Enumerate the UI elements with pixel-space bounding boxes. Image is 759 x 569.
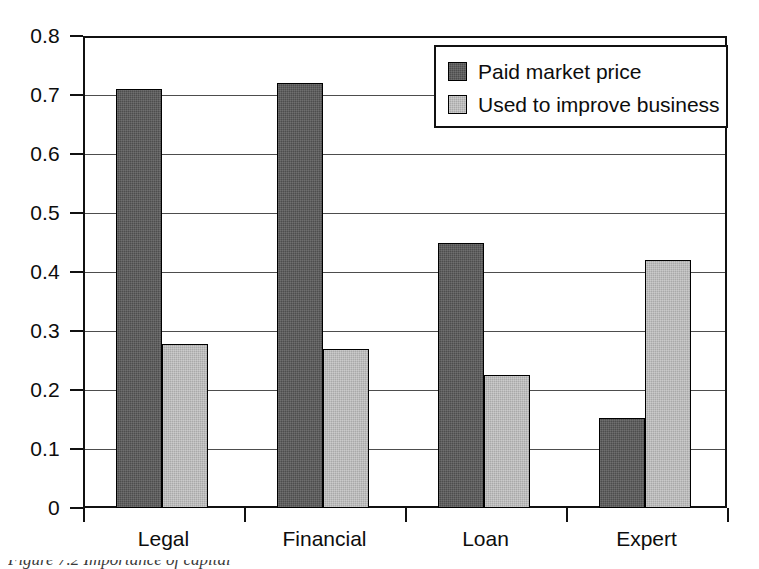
y-axis-tick-label: 0.4 <box>30 260 60 284</box>
y-axis-tick-mark <box>70 94 83 96</box>
y-axis-tick-mark <box>70 35 83 37</box>
y-axis-tick-label: 0.3 <box>30 319 60 343</box>
y-axis-tick-mark <box>70 389 83 391</box>
x-axis-tick-mark <box>566 508 568 522</box>
y-axis-tick-label: 0.7 <box>30 83 60 107</box>
y-axis: 0.80.70.60.50.40.30.20.10 <box>0 0 60 569</box>
y-axis-tick-label: 0.2 <box>30 378 60 402</box>
legend-swatch-icon-paid-market-price <box>448 62 467 81</box>
y-axis-tick-label: 0.6 <box>30 142 60 166</box>
y-axis-tick-mark <box>70 448 83 450</box>
x-axis-tick-mark <box>405 508 407 522</box>
bar-financial-series-0 <box>277 83 323 508</box>
bar-legal-series-1 <box>162 344 208 508</box>
x-axis-tick-mark <box>83 508 85 522</box>
bar-loan-series-1 <box>484 375 530 508</box>
bar-loan-series-0 <box>438 243 484 509</box>
y-axis-tick-label: 0.8 <box>30 24 60 48</box>
x-axis-category-label-loan: Loan <box>462 527 509 551</box>
bar-financial-series-1 <box>323 349 369 508</box>
figure-caption-text: Figure 7.2 Importance of capital <box>8 560 231 569</box>
y-axis-tick-label: 0.1 <box>30 437 60 461</box>
chart-legend: Paid market price Used to improve busine… <box>434 45 728 128</box>
x-axis-category-label-legal: Legal <box>138 527 189 551</box>
figure-caption: Figure 7.2 Importance of capital <box>8 560 428 569</box>
x-axis-category-label-expert: Expert <box>616 527 677 551</box>
legend-entry-used-to-improve-business: Used to improve business <box>448 88 716 121</box>
x-axis-tick-mark <box>727 508 729 522</box>
y-axis-tick-mark <box>70 507 83 509</box>
y-axis-tick-mark <box>70 212 83 214</box>
x-axis-tick-mark <box>244 508 246 522</box>
y-axis-tick-label: 0.5 <box>30 201 60 225</box>
y-axis-tick-label: 0 <box>48 496 60 520</box>
bar-expert-series-0 <box>599 418 645 508</box>
y-axis-tick-mark <box>70 271 83 273</box>
bar-expert-series-1 <box>645 260 691 508</box>
x-axis-category-label-financial: Financial <box>282 527 366 551</box>
legend-entry-paid-market-price: Paid market price <box>448 55 716 88</box>
bar-chart: 0.80.70.60.50.40.30.20.10 LegalFinancial… <box>0 0 759 569</box>
legend-swatch-icon-used-to-improve-business <box>448 95 467 114</box>
y-axis-tick-mark <box>70 153 83 155</box>
bar-legal-series-0 <box>116 89 162 508</box>
legend-label-used-to-improve-business: Used to improve business <box>478 94 720 115</box>
y-axis-tick-mark <box>70 330 83 332</box>
legend-label-paid-market-price: Paid market price <box>478 61 641 82</box>
